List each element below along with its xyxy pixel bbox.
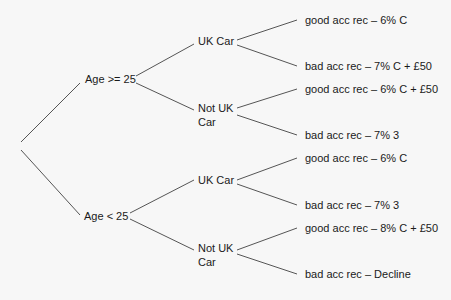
leaf-outcome: bad acc rec – Decline — [305, 267, 411, 281]
leaf-outcome: good acc rec – 6% C — [305, 151, 407, 165]
edge-age-lt-25-not-uk-car — [130, 219, 194, 250]
edge-age-lt-25-uk-car — [130, 180, 194, 213]
leaf-outcome: bad acc rec – 7% 3 — [305, 198, 399, 212]
node-not-uk-car-age-lt-25: Not UK Car — [198, 241, 238, 269]
node-label-line2: Car — [198, 115, 238, 129]
node-age-ge-25: Age >= 25 — [85, 72, 136, 86]
edge-age-ge-25-not-uk-car — [136, 83, 194, 110]
leaf-outcome: bad acc rec – 7% 3 — [305, 128, 399, 142]
edge-root-age-lt-25 — [21, 150, 80, 215]
node-label-line1: Not UK — [198, 101, 238, 115]
edge-root-age-ge-25 — [21, 83, 80, 142]
node-uk-car-age-ge-25: UK Car — [198, 34, 234, 48]
leaf-outcome: good acc rec – 6% C — [305, 13, 407, 27]
node-label-line1: Not UK — [198, 241, 238, 255]
leaf-outcome: bad acc rec – 7% C + £50 — [305, 59, 432, 73]
node-label-line2: Car — [198, 255, 238, 269]
leaf-outcome: good acc rec – 6% C + £50 — [305, 82, 438, 96]
edge-age-ge-25-uk-car — [136, 44, 194, 76]
node-not-uk-car-age-ge-25: Not UK Car — [198, 101, 238, 129]
node-uk-car-age-lt-25: UK Car — [198, 173, 234, 187]
leaf-outcome: good acc rec – 8% C + £50 — [305, 221, 438, 235]
node-age-lt-25: Age < 25 — [84, 209, 128, 223]
